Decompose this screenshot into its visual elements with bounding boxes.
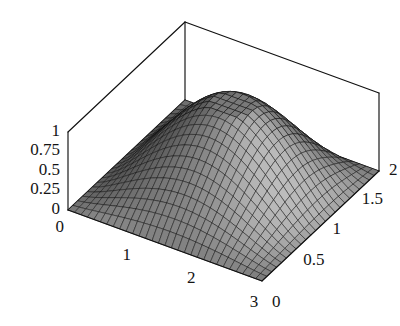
z-tick-1: 1 xyxy=(52,121,61,140)
box-edge-top-right xyxy=(185,22,379,93)
plot-canvas: 1 0.75 0.5 0.25 0 0 1 2 3 0 0.5 1 1.5 2 xyxy=(0,0,400,326)
z-tick-025: 0.25 xyxy=(30,179,60,198)
y-tick-1: 1 xyxy=(333,219,342,238)
y-tick-05: 0.5 xyxy=(303,250,324,269)
z-tick-075: 0.75 xyxy=(30,140,60,159)
x-tick-1: 1 xyxy=(122,245,131,264)
y-tick-2: 2 xyxy=(389,160,398,179)
surface-plot-figure: 1 0.75 0.5 0.25 0 0 1 2 3 0 0.5 1 1.5 2 xyxy=(0,0,400,326)
z-tick-05: 0.5 xyxy=(39,160,60,179)
x-tick-2: 2 xyxy=(187,268,196,287)
z-tick-0: 0 xyxy=(52,199,61,218)
y-tick-15: 1.5 xyxy=(362,189,383,208)
box-edge-top-left xyxy=(68,22,185,132)
x-tick-3: 3 xyxy=(250,292,259,311)
surface-mesh xyxy=(68,91,379,281)
x-tick-0: 0 xyxy=(56,217,65,236)
y-tick-0: 0 xyxy=(272,292,281,311)
